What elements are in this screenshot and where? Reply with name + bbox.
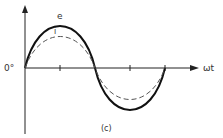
y-axis-arrow-icon <box>22 5 28 13</box>
figure-caption: (c) <box>101 124 112 133</box>
curve-i-label: i <box>54 27 56 36</box>
curve-e-label: e <box>57 11 63 21</box>
sine-wave-diagram: e i 0° ωt (c) <box>0 0 223 138</box>
origin-label: 0° <box>4 63 14 73</box>
x-axis-arrow-icon <box>190 65 199 71</box>
x-axis-label: ωt <box>203 63 215 73</box>
